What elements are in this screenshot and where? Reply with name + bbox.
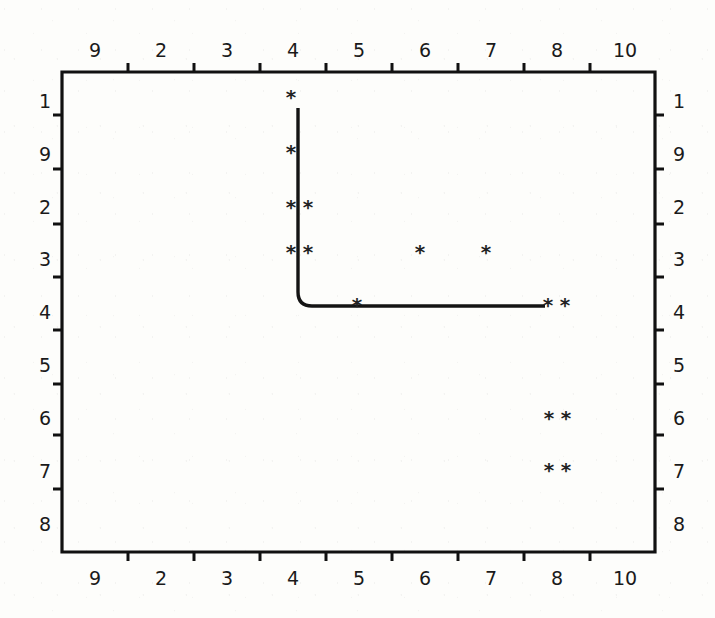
x-label-top-8: 10 [613, 39, 637, 61]
x-label-top-1: 2 [155, 39, 167, 61]
data-marker: * [303, 240, 314, 264]
x-label-top-7: 8 [551, 39, 563, 61]
data-marker: * [286, 140, 297, 164]
x-label-bottom-2: 3 [221, 567, 233, 589]
data-marker: * [481, 240, 492, 264]
x-label-top-6: 7 [485, 39, 497, 61]
y-label-right-0: 1 [673, 90, 685, 112]
x-label-bottom-8: 10 [613, 567, 637, 589]
y-label-left-7: 7 [39, 460, 51, 482]
data-marker: * [303, 195, 314, 219]
data-marker: * [543, 293, 554, 317]
y-label-right-8: 8 [673, 513, 685, 535]
y-label-left-6: 6 [39, 407, 51, 429]
x-label-top-0: 9 [89, 39, 101, 61]
x-label-bottom-6: 7 [485, 567, 497, 589]
x-axis-labels-top: 9 2 3 4 5 6 7 8 10 [89, 39, 637, 61]
x-label-top-3: 4 [287, 39, 299, 61]
y-label-right-3: 3 [673, 248, 685, 270]
y-axis-labels-left: 1 9 2 3 4 5 6 7 8 [39, 90, 51, 535]
data-marker: * [544, 406, 555, 430]
data-marker: * [560, 293, 571, 317]
data-polyline-group [298, 108, 545, 306]
x-label-bottom-4: 5 [353, 567, 365, 589]
data-marker: * [286, 85, 297, 109]
y-label-right-4: 4 [673, 301, 685, 323]
y-label-left-4: 4 [39, 301, 51, 323]
y-label-right-5: 5 [673, 354, 685, 376]
plot-area: 9 2 3 4 5 6 7 8 10 9 2 3 4 5 6 7 8 10 1 … [0, 0, 715, 618]
data-marker: * [286, 195, 297, 219]
y-label-right-2: 2 [673, 196, 685, 218]
y-label-right-6: 6 [673, 407, 685, 429]
y-label-left-8: 8 [39, 513, 51, 535]
data-marker: * [561, 458, 572, 482]
y-label-right-7: 7 [673, 460, 685, 482]
y-label-left-2: 2 [39, 196, 51, 218]
data-marker: * [561, 406, 572, 430]
x-label-bottom-0: 9 [89, 567, 101, 589]
x-label-bottom-7: 8 [551, 567, 563, 589]
y-label-right-1: 9 [673, 143, 685, 165]
data-marker: * [286, 240, 297, 264]
x-axis-labels-bottom: 9 2 3 4 5 6 7 8 10 [89, 567, 637, 589]
x-label-bottom-3: 4 [287, 567, 299, 589]
y-label-left-5: 5 [39, 354, 51, 376]
x-label-bottom-5: 6 [419, 567, 431, 589]
y-label-left-0: 1 [39, 90, 51, 112]
data-polyline [298, 108, 545, 306]
data-marker: * [544, 458, 555, 482]
x-label-bottom-1: 2 [155, 567, 167, 589]
x-label-top-5: 6 [419, 39, 431, 61]
data-marker: * [415, 240, 426, 264]
x-label-top-2: 3 [221, 39, 233, 61]
figure-canvas: 9 2 3 4 5 6 7 8 10 9 2 3 4 5 6 7 8 10 1 … [0, 0, 715, 618]
data-marker: * [352, 293, 363, 317]
x-label-top-4: 5 [353, 39, 365, 61]
y-label-left-3: 3 [39, 248, 51, 270]
y-axis-labels-right: 1 9 2 3 4 5 6 7 8 [673, 90, 685, 535]
y-label-left-1: 9 [39, 143, 51, 165]
data-markers: * * * * * * * * * * * * * * * [286, 85, 572, 482]
